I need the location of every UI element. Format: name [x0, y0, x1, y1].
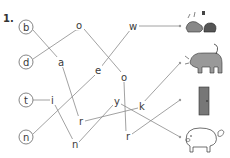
start-letters: b d t n [19, 20, 33, 144]
start-letter-t: t [19, 93, 33, 107]
maze-canvas: 1. b d t n o a e [0, 0, 230, 158]
maze-letters: o a e w o i r y k n r [50, 20, 146, 150]
svg-text:t: t [24, 95, 28, 106]
start-letter-n: n [19, 130, 33, 144]
node-y: y [114, 96, 120, 107]
node-e: e [95, 65, 101, 76]
exercise-number: 1. [3, 13, 14, 24]
start-letter-d: d [19, 55, 33, 69]
maze-lines [33, 26, 180, 142]
dog-icon [185, 44, 222, 73]
pig-icon [186, 128, 224, 152]
end-dots [179, 25, 181, 138]
shoes-icon [186, 11, 216, 32]
node-o1: o [76, 20, 82, 31]
node-o2: o [121, 72, 127, 83]
node-a: a [58, 57, 64, 68]
door-icon [199, 87, 209, 115]
node-w: w [129, 21, 137, 32]
node-k: k [139, 101, 145, 112]
word-maze-exercise: 1. b d t n o a e [0, 0, 230, 158]
start-letter-b: b [19, 20, 33, 34]
svg-text:n: n [23, 132, 29, 143]
node-n2: n [72, 139, 78, 150]
node-i: i [51, 95, 54, 106]
svg-text:b: b [23, 22, 29, 33]
svg-text:d: d [23, 57, 29, 68]
